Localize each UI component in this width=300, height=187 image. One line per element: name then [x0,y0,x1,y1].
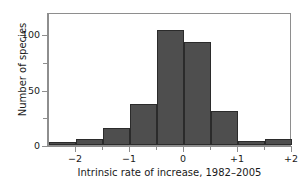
histogram-figure: Number of species 050100 −2−10+1+2 Intri… [0,0,300,187]
x-tick-major [237,147,238,152]
x-tick-minor [210,147,211,150]
histogram-bar [211,111,238,145]
x-tick-major [75,147,76,152]
x-tick-label: 0 [180,153,186,164]
x-tick-major [129,147,130,152]
x-tick-label: +2 [284,153,298,164]
histogram-bar [103,128,130,145]
x-axis-line [48,146,292,147]
x-tick-label: −2 [68,153,82,164]
x-tick-label: +1 [230,153,244,164]
histogram-bar [76,139,103,145]
y-tick-label: 0 [34,141,40,151]
histogram-bar [265,139,292,145]
x-tick-minor [156,147,157,150]
x-tick-major [291,147,292,152]
y-axis-title: Number of species [17,10,28,130]
plot-frame [48,13,291,146]
x-tick-label: −1 [122,153,136,164]
histogram-bar [184,42,211,145]
x-tick-minor [264,147,265,150]
x-tick-major [183,147,184,152]
x-axis-title: Intrinsic rate of increase, 1982–2005 [48,167,291,178]
plot-area [49,14,290,145]
histogram-bar [157,30,184,145]
histogram-bar [238,141,265,145]
histogram-bar [49,142,76,145]
y-tick-label: 50 [28,86,40,96]
x-tick-minor [102,147,103,150]
histogram-bar [130,104,157,145]
